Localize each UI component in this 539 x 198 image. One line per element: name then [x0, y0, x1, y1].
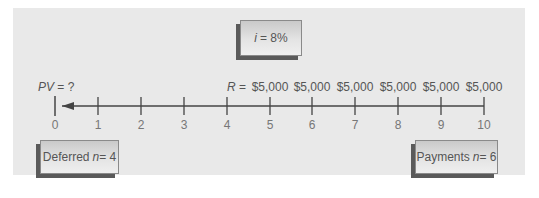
tick-label-8: 8 — [395, 118, 402, 132]
tick-label-0: 0 — [52, 118, 59, 132]
tick-label-2: 2 — [138, 118, 145, 132]
tick-label-6: 6 — [309, 118, 316, 132]
payment-periods-box: Payments n = 6 — [415, 140, 498, 174]
deferred-periods-box: Deferred n = 4 — [40, 140, 119, 174]
tick-label-1: 1 — [95, 118, 102, 132]
tick-label-5: 5 — [267, 118, 274, 132]
tick-label-10: 10 — [477, 118, 490, 132]
arrow-left-icon — [62, 102, 74, 110]
tick-label-9: 9 — [438, 118, 445, 132]
tick-label-7: 7 — [352, 118, 359, 132]
tick-label-4: 4 — [224, 118, 231, 132]
tick-label-3: 3 — [181, 118, 188, 132]
